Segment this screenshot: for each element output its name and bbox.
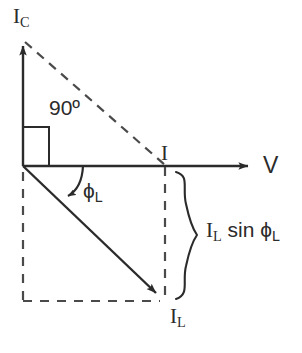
ic-main: I [13, 4, 20, 28]
brace-label-phi: ϕ [260, 218, 272, 241]
projection-brace-label: IL sin ϕL [206, 219, 280, 243]
brace-label-sin: sin [222, 218, 261, 241]
phase-angle-arc [68, 166, 83, 196]
right-angle-label: 90º [49, 97, 80, 118]
inductive-current-vector-label: IL [170, 306, 186, 329]
phase-angle-label: ϕL [83, 180, 103, 204]
resultant-current-point-label: I [161, 143, 168, 164]
voltage-axis-label: V [263, 154, 278, 177]
phi-subscript: L [95, 189, 103, 205]
phasor-diagram-canvas [0, 0, 302, 353]
il-subscript: L [177, 314, 186, 330]
il-main: I [170, 304, 177, 328]
projection-brace [176, 172, 197, 299]
phasor-diagram: IC V I IL 90º ϕL IL sin ϕL [0, 0, 302, 353]
hypotenuse-dashed-line [25, 42, 165, 165]
capacitive-current-axis-label: IC [13, 6, 30, 29]
phi-symbol: ϕ [83, 179, 95, 202]
right-angle-marker-square [23, 127, 49, 166]
ic-subscript: C [20, 14, 30, 30]
brace-label-i: I [206, 218, 213, 242]
brace-label-sub2: L [272, 228, 280, 244]
brace-label-sub1: L [213, 228, 222, 244]
